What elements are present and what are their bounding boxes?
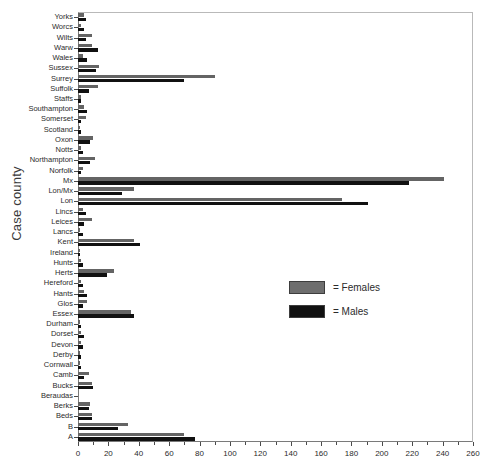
bar-females — [78, 249, 80, 252]
x-axis-tick — [276, 442, 277, 445]
bar-females — [78, 85, 98, 88]
x-axis-tick-label: 140 — [284, 449, 297, 458]
y-axis-tick-label: Lincs — [55, 208, 73, 216]
x-axis-tick-label: 200 — [375, 449, 388, 458]
bar-group: Dorset — [78, 329, 473, 339]
bar-group: Somerset — [78, 114, 473, 124]
bar-males — [78, 222, 84, 225]
bar-females — [78, 310, 131, 313]
x-axis-tick-label: 40 — [134, 449, 143, 458]
x-axis-tick — [473, 442, 474, 446]
x-axis-tick — [412, 442, 413, 446]
bar-females — [78, 105, 84, 108]
y-axis-tick-label: Hereford — [44, 279, 73, 287]
bar-males — [78, 417, 92, 420]
bar-females — [78, 24, 81, 27]
x-axis-tick — [443, 442, 444, 446]
x-axis-tick — [124, 442, 125, 445]
x-axis-tick-label: 60 — [165, 449, 174, 458]
bar-group: Mx — [78, 176, 473, 186]
x-axis-tick — [382, 442, 383, 446]
bar-females — [78, 177, 444, 180]
bar-males — [78, 48, 98, 51]
x-axis-tick — [306, 442, 307, 445]
bar-males — [78, 181, 409, 184]
bar-group: Southampton — [78, 104, 473, 114]
bar-females — [78, 351, 80, 354]
bar-males — [78, 18, 86, 21]
bar-group: Beraudas — [78, 391, 473, 401]
bar-males — [78, 355, 81, 358]
bar-group: Norfolk — [78, 166, 473, 176]
y-axis-tick-label: Wales — [52, 54, 73, 62]
bar-males — [78, 437, 195, 440]
bar-males — [78, 263, 83, 266]
bar-males — [78, 294, 87, 297]
bar-males — [78, 386, 93, 389]
bar-group: Lancs — [78, 227, 473, 237]
y-axis-tick-label: Somerset — [41, 115, 73, 123]
bar-females — [78, 54, 83, 57]
x-axis-tick-label: 0 — [76, 449, 80, 458]
bar-group: Notts — [78, 145, 473, 155]
bar-males — [78, 202, 368, 205]
bar-group: Wilts — [78, 32, 473, 42]
x-axis-tick — [397, 442, 398, 445]
bar-group: Derby — [78, 350, 473, 360]
bar-group: Bucks — [78, 381, 473, 391]
bar-males — [78, 99, 81, 102]
y-axis-tick-label: Southampton — [28, 105, 73, 113]
x-axis-tick-label: 120 — [254, 449, 267, 458]
bar-females — [78, 372, 89, 375]
bar-males — [78, 253, 80, 256]
bar-group: Herts — [78, 268, 473, 278]
y-axis-tick-label: Beraudas — [41, 392, 73, 400]
y-axis-tick-label: Ireland — [50, 249, 73, 257]
bar-females — [78, 413, 92, 416]
bar-group: Oxon — [78, 135, 473, 145]
y-axis-tick-label: Derby — [53, 351, 73, 359]
bar-males — [78, 110, 87, 113]
x-axis-tick — [336, 442, 337, 445]
bar-group: Devon — [78, 340, 473, 350]
y-axis-tick-label: Yorks — [55, 13, 73, 21]
bar-males — [78, 233, 83, 236]
bar-males — [78, 38, 86, 41]
bar-males — [78, 335, 84, 338]
y-axis-tick-label: Essex — [53, 310, 73, 318]
bar-females — [78, 433, 184, 436]
x-axis-tick — [260, 442, 261, 446]
bar-males — [78, 376, 84, 379]
y-axis-tick-label: Leices — [51, 218, 73, 226]
x-axis-tick — [215, 442, 216, 445]
y-axis-tick-label: Beds — [56, 412, 73, 420]
bar-females — [78, 331, 81, 334]
y-axis-tick-label: Hants — [53, 290, 73, 298]
y-axis-tick-label: Norfolk — [49, 167, 73, 175]
bar-males — [78, 407, 89, 410]
y-axis-tick-label: Scotland — [44, 126, 73, 134]
bar-group: Yorks — [78, 12, 473, 22]
bar-females — [78, 75, 215, 78]
bar-females — [78, 228, 80, 231]
legend-label-females: = Females — [333, 282, 380, 293]
bar-males — [78, 79, 184, 82]
bar-group: Northampton — [78, 155, 473, 165]
x-axis-tick — [291, 442, 292, 446]
bar-group: Lincs — [78, 207, 473, 217]
y-axis-tick-label: Oxon — [55, 136, 73, 144]
x-axis-tick — [154, 442, 155, 445]
bar-group: A — [78, 432, 473, 442]
legend: = Females = Males — [289, 281, 380, 329]
bar-males — [78, 140, 90, 143]
bar-females — [78, 382, 92, 385]
bar-group: Hants — [78, 288, 473, 298]
bar-chart: Case county YorksWorcsWiltsWarwWalesSuss… — [0, 0, 497, 475]
bar-females — [78, 341, 81, 344]
bar-group: Camb — [78, 370, 473, 380]
y-axis-tick-label: Lon/Mx — [48, 187, 73, 195]
bar-males — [78, 304, 83, 307]
y-axis-tick-label: Sussex — [48, 64, 73, 72]
bar-males — [78, 243, 140, 246]
bar-group: Hunts — [78, 258, 473, 268]
